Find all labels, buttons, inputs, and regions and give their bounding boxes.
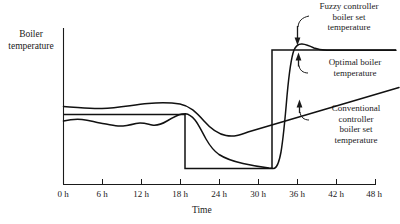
- callout-arrowhead-optimal: [296, 53, 302, 61]
- callout-leader-optimal: [299, 66, 308, 74]
- callout-arrowhead-conventional: [297, 100, 303, 108]
- boiler-temperature-chart: Boiler temperature Time 0 h 6 h 12 h 18 …: [0, 0, 400, 224]
- x-axis-ticks: [64, 179, 376, 185]
- callout-leader-fuzzy: [298, 16, 309, 27]
- series-fuzzy-set-temperature: [64, 44, 397, 168]
- plot-area: [0, 0, 400, 224]
- series-optimal-boiler-temperature: [64, 88, 400, 137]
- series-conventional-set-temperature: [64, 50, 397, 169]
